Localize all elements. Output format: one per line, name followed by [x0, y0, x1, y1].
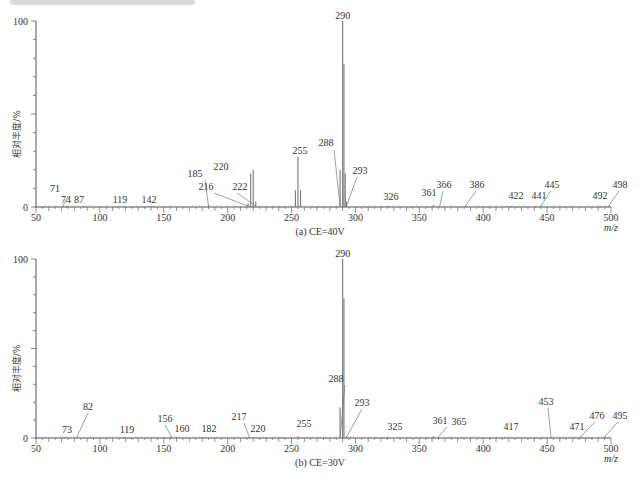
peak-label: 217 — [232, 411, 247, 422]
x-tick-label: 250 — [284, 212, 299, 223]
peak-label: 417 — [504, 421, 519, 432]
peak-label: 492 — [593, 190, 608, 201]
peak-label: 119 — [113, 194, 128, 205]
x-tick-label: 150 — [156, 212, 171, 223]
peak-label: 365 — [452, 416, 467, 427]
panel-caption: (a) CE=40V — [295, 226, 345, 238]
peak-label: 216 — [199, 181, 214, 192]
x-tick-label: 100 — [92, 212, 107, 223]
x-tick-label: 300 — [348, 443, 363, 454]
x-tick-label: 400 — [476, 443, 491, 454]
leader-line — [244, 423, 249, 437]
peak-label: 255 — [293, 145, 308, 156]
peak-label: 386 — [470, 179, 485, 190]
peak-label: 453 — [539, 396, 554, 407]
peak-label: 476 — [590, 410, 605, 421]
y-axis-label: 相对丰度/% — [11, 344, 22, 392]
peak-label: 366 — [437, 179, 452, 190]
x-axis-unit: m/z — [604, 222, 618, 233]
peak-label: 87 — [74, 194, 84, 205]
peak-label: 471 — [570, 421, 585, 432]
peak-label: 156 — [158, 413, 173, 424]
x-tick-label: 350 — [412, 212, 427, 223]
peak-label-290: 290 — [335, 248, 350, 259]
x-tick-label: 200 — [220, 212, 235, 223]
peak-label: 293 — [353, 165, 368, 176]
peak-label: 160 — [175, 423, 190, 434]
y-axis-label: 相对丰度/% — [11, 110, 22, 158]
peak-label: 119 — [120, 424, 135, 435]
peak-label: 326 — [384, 191, 399, 202]
x-tick-label: 250 — [284, 443, 299, 454]
peak-label: 71 — [50, 183, 60, 194]
leader-line — [77, 413, 88, 437]
x-tick-label: 350 — [412, 443, 427, 454]
peak-label: 288 — [319, 137, 334, 148]
leader-line — [347, 409, 363, 437]
peak-label: 445 — [545, 179, 560, 190]
peak-label: 255 — [297, 418, 312, 429]
peak-label-290: 290 — [335, 10, 350, 21]
spectrum-panel-b: 1000相对丰度/%50100150200250300350400450500m… — [11, 248, 628, 469]
x-tick-label: 100 — [92, 443, 107, 454]
peak-label: 82 — [83, 401, 93, 412]
y-tick-100: 100 — [13, 254, 28, 265]
peak-label: 422 — [509, 190, 524, 201]
leader-line — [165, 425, 171, 437]
peak-label: 222 — [233, 181, 248, 192]
peak-label: 288 — [329, 373, 344, 384]
peak-label: 498 — [613, 179, 628, 190]
x-tick-label: 400 — [476, 212, 491, 223]
peak-label: 325 — [388, 421, 403, 432]
x-tick-label: 50 — [31, 212, 41, 223]
y-tick-0: 0 — [23, 433, 28, 444]
leader-line — [608, 191, 619, 206]
y-tick-0: 0 — [23, 202, 28, 213]
peak-label: 495 — [613, 410, 628, 421]
peak-label: 142 — [142, 194, 157, 205]
x-tick-label: 150 — [156, 443, 171, 454]
leader-line — [347, 177, 358, 206]
spectrum-panel-a: 1000相对丰度/%50100150200250300350400450500m… — [11, 10, 628, 238]
peak-label: 73 — [62, 424, 72, 435]
peak-label: 441 — [532, 190, 547, 201]
x-tick-label: 200 — [220, 443, 235, 454]
peak-label: 182 — [202, 423, 217, 434]
x-tick-label: 50 — [31, 443, 41, 454]
leader-line — [440, 191, 443, 206]
leader-line — [605, 422, 618, 437]
mass-spectra-figure: 1000相对丰度/%50100150200250300350400450500m… — [0, 0, 642, 484]
peak-label: 361 — [433, 415, 448, 426]
peak-label: 293 — [355, 397, 370, 408]
leader-line — [439, 427, 448, 437]
peak-label: 361 — [422, 187, 437, 198]
x-tick-label: 300 — [348, 212, 363, 223]
x-tick-label: 450 — [540, 443, 555, 454]
leader-line — [334, 150, 340, 206]
peak-label: 185 — [188, 168, 203, 179]
panel-caption: (b) CE=30V — [295, 457, 346, 469]
peak-label: 220 — [214, 161, 229, 172]
peak-label: 74 — [61, 194, 71, 205]
x-axis-unit: m/z — [604, 453, 618, 464]
peak-label: 220 — [251, 423, 266, 434]
leader-line — [548, 408, 551, 437]
leader-line — [214, 193, 248, 206]
leader-line — [465, 191, 476, 206]
x-tick-label: 450 — [540, 212, 555, 223]
y-tick-100: 100 — [13, 16, 28, 27]
